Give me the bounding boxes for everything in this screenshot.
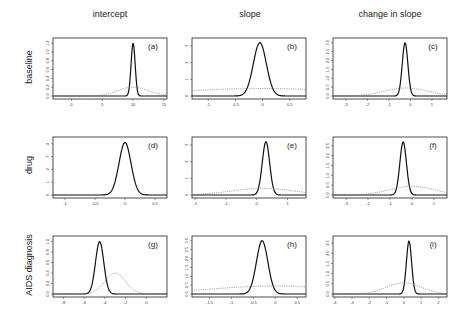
panel-h: -1.5-1-0.500.50.00.51.01.52.02.53.0(h) — [192, 236, 306, 297]
y-tick-label: 0 — [184, 193, 189, 196]
x-tick-label: 0 — [70, 102, 73, 107]
x-tick-label: -1 — [207, 102, 211, 107]
y-tick-label: 1.5 — [184, 264, 189, 270]
panel-f: -3-2-1010.00.51.01.52.02.5(f) — [333, 137, 447, 198]
x-tick-label: -2 — [124, 300, 128, 305]
posterior-curve — [53, 143, 167, 195]
x-tick-label: -1.5 — [206, 300, 214, 305]
y-tick-label: 1 — [45, 180, 50, 183]
y-tick-label: 0.8 — [45, 249, 50, 255]
y-tick-label: 3 — [45, 155, 50, 158]
x-tick-label: -0.5 — [92, 201, 100, 206]
y-tick-label: 2.0 — [184, 255, 189, 261]
prior-curve — [333, 283, 447, 294]
panel-e: -2-1010123(e) — [192, 137, 306, 198]
x-tick-label: -0.5 — [250, 300, 258, 305]
y-tick-label: 0.0 — [325, 290, 330, 296]
y-tick-label: 4 — [45, 142, 50, 145]
x-tick-label: 0.5 — [294, 300, 300, 305]
y-tick-label: 0 — [45, 193, 50, 196]
y-tick-label: 1.0 — [325, 75, 330, 81]
x-tick-label: -3 — [344, 102, 348, 107]
x-tick-label: -4 — [103, 300, 107, 305]
y-tick-label: 1.0 — [325, 270, 330, 276]
x-tick-label: -2 — [367, 300, 371, 305]
y-tick-label: 0 — [184, 94, 189, 97]
y-tick-label: 2.5 — [325, 240, 330, 246]
y-tick-label: 0.5 — [184, 282, 189, 288]
x-tick-label: -2 — [366, 102, 370, 107]
y-tick-label: 2 — [184, 61, 189, 64]
y-tick-label: 0.0 — [325, 191, 330, 197]
row-title-drug: drug — [24, 115, 34, 215]
y-tick-label: 2.0 — [325, 250, 330, 256]
x-tick-label: -1 — [230, 300, 234, 305]
x-tick-label: -6 — [82, 300, 86, 305]
x-tick-label: 0 — [256, 201, 259, 206]
prior-curve — [192, 89, 306, 91]
y-tick-label: 1.0 — [45, 238, 50, 244]
row-title-aids-diagnosis: AIDS diagnosis — [24, 215, 34, 315]
x-tick-label: 1 — [420, 300, 423, 305]
y-tick-label: 1.5 — [325, 66, 330, 72]
x-tick-label: 0 — [411, 201, 414, 206]
panel-label: (g) — [148, 240, 158, 249]
panel-label: (b) — [287, 42, 297, 51]
panel-label: (i) — [429, 240, 436, 249]
x-tick-label: -8 — [62, 300, 66, 305]
x-tick-label: -3 — [350, 300, 354, 305]
column-title-intercept: intercept — [40, 9, 180, 19]
y-tick-label: 0.4 — [45, 75, 50, 81]
panel-b: -1-0.500.50123(b) — [192, 38, 306, 99]
y-tick-label: 2 — [45, 168, 50, 171]
x-tick-label: -1 — [63, 201, 67, 206]
posterior-curve — [53, 44, 167, 96]
panel-label: (c) — [428, 42, 438, 51]
y-tick-label: 0.6 — [45, 66, 50, 72]
panel-g: -8-6-4-200.00.20.40.60.81.0(g) — [53, 236, 167, 297]
x-tick-label: -2 — [366, 201, 370, 206]
x-tick-label: -1 — [388, 201, 392, 206]
x-tick-label: 1 — [431, 102, 434, 107]
column-title-slope: slope — [180, 9, 320, 19]
panel-label: (e) — [287, 141, 297, 150]
x-tick-label: 0 — [124, 201, 127, 206]
y-tick-label: 0.5 — [325, 84, 330, 90]
x-tick-label: -3 — [344, 201, 348, 206]
y-tick-label: 1.0 — [184, 273, 189, 279]
panel-a: 0510150.00.20.40.60.81.01.2(a) — [53, 38, 167, 99]
x-tick-label: -2 — [193, 201, 197, 206]
x-tick-label: 0 — [145, 300, 148, 305]
panel-label: (f) — [429, 141, 437, 150]
x-tick-label: 0.5 — [287, 102, 293, 107]
row-title-baseline: baseline — [24, 17, 34, 117]
y-tick-label: 2.5 — [184, 246, 189, 252]
x-tick-label: 15 — [162, 102, 167, 107]
x-tick-label: 0 — [409, 102, 412, 107]
y-tick-label: 0.4 — [45, 269, 50, 275]
y-tick-label: 0.0 — [184, 290, 189, 296]
x-tick-label: -1 — [387, 102, 391, 107]
prior-curve — [333, 88, 447, 96]
panel-label: (h) — [287, 240, 297, 249]
x-tick-label: 1 — [433, 201, 436, 206]
prior-curve — [192, 188, 306, 194]
y-tick-label: 3.0 — [325, 39, 330, 45]
y-tick-label: 2.0 — [325, 57, 330, 63]
y-tick-label: 2 — [184, 160, 189, 163]
x-tick-label: 0 — [274, 300, 277, 305]
y-tick-label: 0.0 — [45, 290, 50, 296]
panel-label: (d) — [148, 141, 158, 150]
y-tick-label: 0.2 — [45, 280, 50, 286]
y-tick-label: 3 — [184, 44, 189, 47]
y-tick-label: 0.0 — [45, 92, 50, 98]
x-tick-label: 10 — [131, 102, 136, 107]
y-tick-label: 2.5 — [325, 142, 330, 148]
y-tick-label: 3 — [184, 143, 189, 146]
y-tick-label: 0.8 — [45, 57, 50, 63]
prior-curve — [53, 87, 167, 96]
y-tick-label: 1.2 — [45, 40, 50, 46]
prior-curve — [333, 186, 447, 195]
x-tick-label: -4 — [333, 300, 337, 305]
y-tick-label: 2.0 — [325, 152, 330, 158]
